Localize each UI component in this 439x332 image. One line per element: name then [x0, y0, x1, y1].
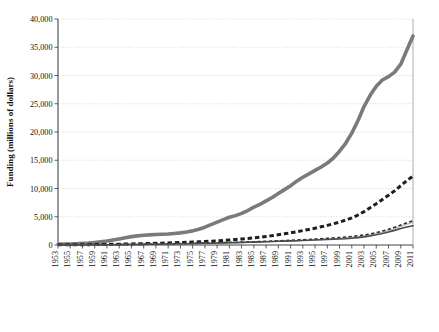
x-tick-label: 1985	[247, 251, 256, 267]
x-tick-label: 2001	[345, 251, 354, 267]
y-tick-label: 40,000	[30, 15, 53, 24]
x-tick-label: 1991	[284, 251, 293, 267]
y-tick-label: 35,000	[30, 43, 53, 52]
x-tick-label: 2007	[382, 251, 391, 267]
x-tick-label: 1987	[259, 251, 268, 267]
x-tick-label: 1973	[173, 251, 182, 267]
x-tick-label: 1967	[137, 251, 146, 267]
y-tick-label: 5,000	[34, 213, 52, 222]
x-tick-label: 1981	[222, 251, 231, 267]
x-tick-label: 1993	[296, 251, 305, 267]
x-tick-label: 2009	[394, 251, 403, 267]
y-tick-label: 20,000	[30, 128, 53, 137]
x-tick-label: 1963	[112, 251, 121, 267]
x-tick-label: 2005	[369, 251, 378, 267]
x-tick-label: 1961	[100, 251, 109, 267]
x-tick-label: 1965	[124, 251, 133, 267]
y-axis-title: Funding (millions of dollars)	[5, 77, 15, 187]
x-tick-label: 1975	[186, 251, 195, 267]
y-tick-label: 30,000	[30, 72, 53, 81]
line-chart: 05,00010,00015,00020,00025,00030,00035,0…	[0, 0, 439, 332]
series-line	[58, 36, 413, 244]
chart-figure: 05,00010,00015,00020,00025,00030,00035,0…	[0, 0, 439, 332]
x-tick-label: 1977	[198, 251, 207, 267]
x-tick-label: 1995	[308, 251, 317, 267]
x-tick-label: 2011	[406, 251, 415, 267]
x-tick-label: 1957	[76, 251, 85, 267]
x-tick-label: 1997	[320, 251, 329, 267]
x-tick-label: 1953	[51, 251, 60, 267]
x-tick-label: 1959	[88, 251, 97, 267]
x-tick-label: 1969	[149, 251, 158, 267]
y-tick-label: 15,000	[30, 156, 53, 165]
x-tick-label: 1955	[63, 251, 72, 267]
y-tick-label: 0	[48, 241, 52, 250]
x-tick-label: 1983	[235, 251, 244, 267]
x-tick-label: 1979	[210, 251, 219, 267]
x-tick-label: 2003	[357, 251, 366, 267]
series-line	[58, 176, 413, 245]
y-tick-label: 10,000	[30, 185, 53, 194]
x-tick-label: 1971	[161, 251, 170, 267]
x-tick-label: 1999	[333, 251, 342, 267]
y-tick-label: 25,000	[30, 100, 53, 109]
x-tick-label: 1989	[271, 251, 280, 267]
